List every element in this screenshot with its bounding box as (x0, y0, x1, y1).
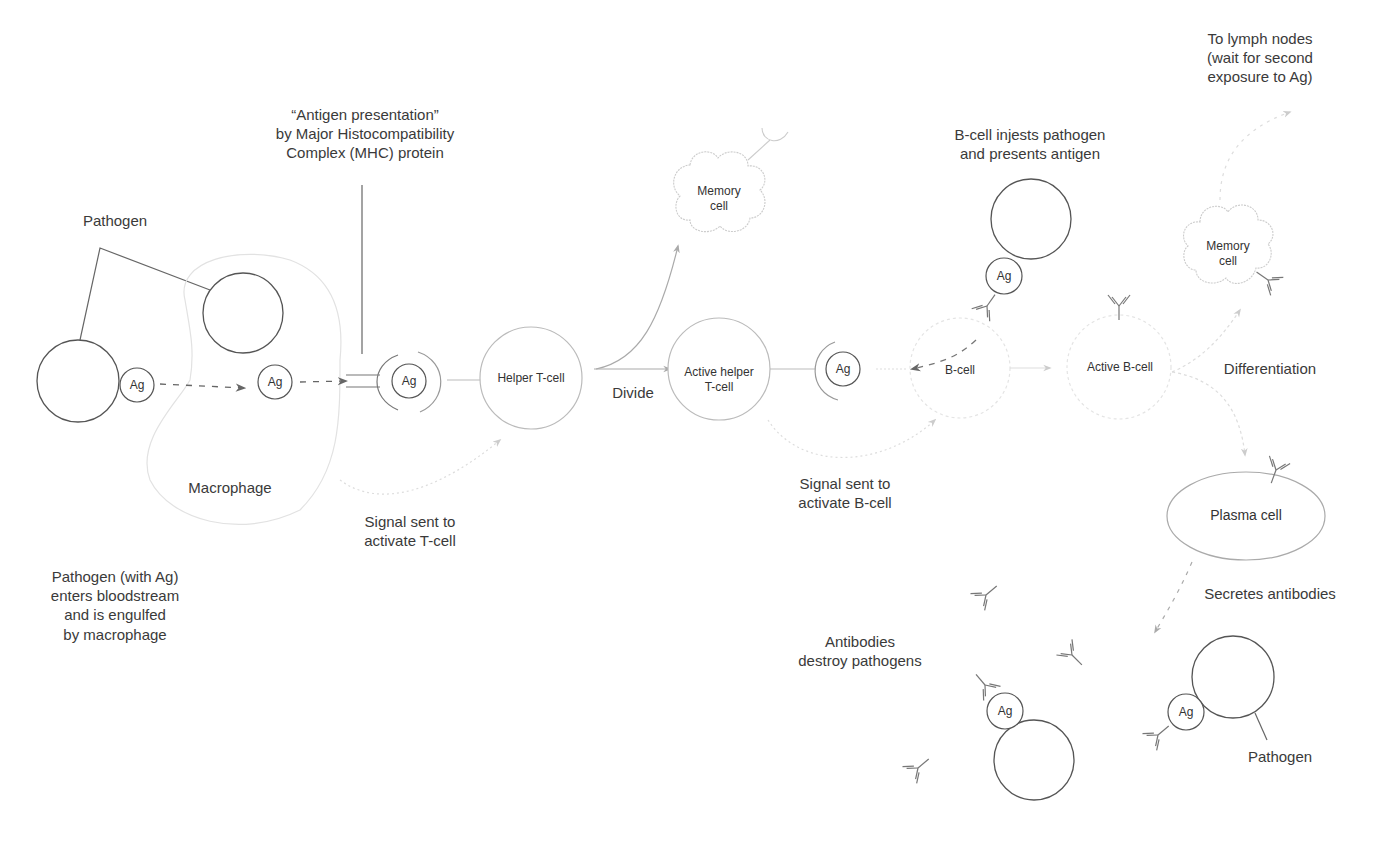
pathogen-bottom-mid (994, 720, 1074, 800)
label-antigen-presentation: “Antigen presentation” by Major Histocom… (240, 105, 490, 163)
plasma-cell-label: Plasma cell (1210, 507, 1282, 525)
label-secretes: Secretes antibodies (1180, 584, 1360, 603)
label-b-ingests: B-cell injests pathogen and presents ant… (925, 125, 1135, 163)
ag-tag-2: Ag (268, 375, 283, 389)
ag-tag-mhc: Ag (402, 374, 417, 388)
antibody-free-1 (971, 578, 1004, 611)
antibody-free-2 (1056, 639, 1089, 672)
signal-t-arrow (340, 440, 500, 494)
pathogen-cell-engulfed (203, 273, 283, 353)
dashed-arrow-2 (300, 381, 346, 382)
label-signal-b: Signal sent to activate B-cell (775, 474, 915, 512)
antibody-free-3 (903, 751, 936, 784)
label-divide: Divide (598, 383, 668, 402)
ag-tag-bottom-mid: Ag (998, 704, 1013, 718)
active-helper-t-cell-label: Active helper T-cell (684, 365, 753, 395)
b-cell-label: B-cell (945, 363, 975, 378)
ag-tag-1: Ag (130, 378, 145, 392)
memory-cell-top-label: Memory cell (697, 184, 740, 214)
pathogen-cell-left (37, 340, 119, 422)
label-macrophage: Macrophage (170, 478, 290, 497)
ag-tag-bottom-right: Ag (1179, 705, 1194, 719)
diff-plasma-arrow (1172, 372, 1245, 455)
memory-arrow (596, 246, 678, 369)
label-pathogen-top: Pathogen (70, 211, 160, 230)
ag-tag-helper: Ag (836, 362, 851, 376)
label-signal-t: Signal sent to activate T-cell (340, 512, 480, 550)
label-pathogen-bottom: Pathogen (1230, 747, 1330, 766)
active-b-cell-label: Active B-cell (1087, 360, 1153, 375)
dashed-arrow-1 (160, 384, 244, 388)
pathogen-b-ingested (991, 179, 1071, 259)
pathogen-bottom-right (1192, 636, 1274, 718)
signal-b-arrow (768, 420, 935, 458)
label-step1-caption: Pathogen (with Ag) enters bloodstream an… (30, 567, 200, 644)
label-lymph: To lymph nodes (wait for second exposure… (1190, 29, 1330, 87)
pathogen-callout (80, 248, 210, 340)
ag-tag-b: Ag (997, 269, 1012, 283)
label-differentiation: Differentiation (1210, 359, 1330, 378)
label-antibodies-destroy: Antibodies destroy pathogens (775, 632, 945, 670)
immune-response-diagram (0, 0, 1376, 842)
lymph-arrow (1220, 112, 1290, 200)
helper-t-cell-label: Helper T-cell (497, 371, 564, 386)
memory-cell-right-label: Memory cell (1206, 239, 1249, 269)
